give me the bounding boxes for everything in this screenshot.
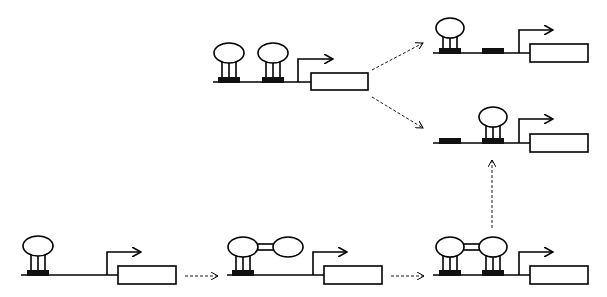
panel-top-middle xyxy=(213,43,368,90)
panel-middle-right xyxy=(433,107,588,152)
protein-2 xyxy=(479,237,507,270)
binding-site-1 xyxy=(439,138,461,144)
gene-box xyxy=(311,73,368,90)
protein-1 xyxy=(436,18,464,48)
protein-2 xyxy=(258,43,288,77)
binding-site-2 xyxy=(482,48,504,54)
protein-1 xyxy=(214,43,244,77)
binding-site-1 xyxy=(218,77,240,83)
protein-1-bound xyxy=(228,237,258,270)
protein-2 xyxy=(479,107,507,138)
binding-site-2 xyxy=(482,138,504,144)
gene-box xyxy=(118,266,176,284)
protein-bridge xyxy=(258,244,273,250)
binding-site-1 xyxy=(439,270,461,276)
gene-box xyxy=(530,44,588,62)
binding-site-1 xyxy=(232,270,254,276)
protein-1 xyxy=(23,236,53,270)
arrow-top-middle-to-middle-right xyxy=(372,97,423,128)
binding-site-2 xyxy=(482,270,504,276)
panel-bottom-left xyxy=(21,236,176,284)
gene-regulation-diagram xyxy=(0,0,607,297)
binding-site-2 xyxy=(262,77,284,83)
protein-2-free xyxy=(273,237,303,257)
panel-bottom-right xyxy=(433,237,588,284)
protein-bridge xyxy=(464,244,479,250)
gene-box xyxy=(324,266,382,284)
panel-top-right xyxy=(433,18,588,62)
protein-1 xyxy=(436,237,464,270)
gene-box xyxy=(530,266,588,284)
binding-site-1 xyxy=(27,270,49,276)
panel-bottom-middle xyxy=(227,237,382,284)
binding-site-1 xyxy=(439,48,461,54)
gene-box xyxy=(530,134,588,152)
arrow-top-middle-to-top-right xyxy=(372,43,423,70)
